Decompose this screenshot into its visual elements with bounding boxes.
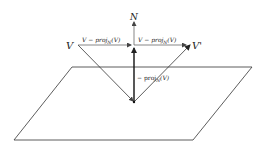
right-horizontal-label: V − projN(V) [138, 36, 177, 45]
normal-label: N [129, 12, 139, 22]
origin-point [133, 101, 135, 103]
vertical-label: − projN(V) [137, 74, 170, 83]
left-horizontal-label: V − projN(V) [82, 36, 121, 45]
reflected-label: V' [192, 40, 202, 51]
incident-vector [78, 45, 133, 101]
reflection-diagram: N V V' V − projN(V) V − projN(V) − projN… [0, 0, 263, 149]
incident-label: V [66, 40, 75, 51]
plane [14, 67, 252, 140]
